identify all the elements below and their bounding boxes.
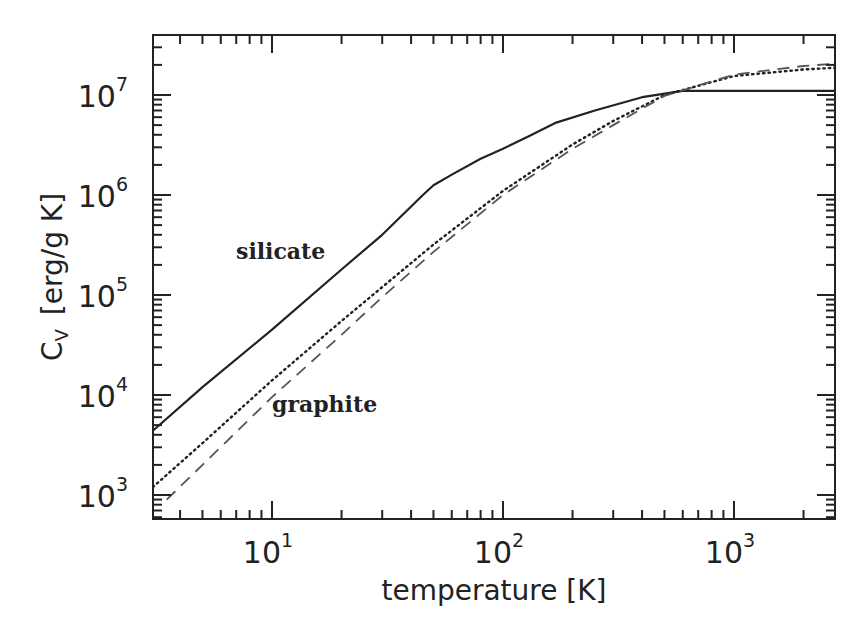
x-tick-label: 101	[243, 529, 293, 570]
silicate-label: silicate	[236, 238, 325, 264]
y-axis-subscript: V	[51, 329, 72, 342]
y-tick-label: 105	[78, 273, 128, 314]
svg-text:CV[erg/g K]: CV[erg/g K]	[36, 193, 72, 361]
y-tick-label: 107	[78, 73, 128, 114]
x-tick-label: 102	[474, 529, 524, 570]
plot-axes	[153, 35, 835, 519]
heat-capacity-chart: 101102103103104105106107 silicate graphi…	[0, 0, 866, 643]
y-tick-label: 104	[78, 373, 128, 414]
axis-tick-labels: 101102103103104105106107	[78, 73, 755, 570]
y-tick-label: 106	[78, 173, 128, 214]
plot-curves	[153, 63, 848, 500]
graphite-label: graphite	[272, 391, 377, 417]
y-tick-label: 103	[78, 473, 128, 514]
curve-graphite-dashed	[167, 63, 848, 500]
y-axis-units: [erg/g K]	[36, 193, 69, 315]
y-axis-title: CV[erg/g K]	[36, 193, 72, 361]
x-tick-label: 103	[705, 529, 755, 570]
plot-frame	[153, 35, 835, 519]
curve-graphite-dotted	[153, 67, 848, 487]
y-axis-symbol: C	[36, 342, 69, 362]
x-axis-title: temperature [K]	[381, 574, 606, 607]
